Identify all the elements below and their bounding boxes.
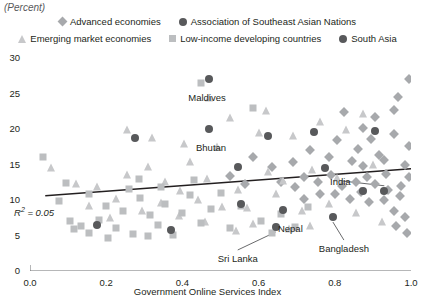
- legend-label: South Asia: [351, 33, 396, 44]
- data-point-low-income-developing-countries: [67, 218, 74, 225]
- legend-item-emerging-market-economies[interactable]: Emerging market economies: [18, 33, 151, 44]
- y-tick-label: 15: [4, 159, 20, 170]
- data-point-south-asia: [205, 75, 213, 83]
- data-point-low-income-developing-countries: [190, 177, 197, 184]
- data-point-advanced-economies: [305, 145, 315, 155]
- data-point-emerging-market-economies: [264, 167, 272, 175]
- legend-row: Advanced economiesAssociation of Southea…: [0, 14, 415, 29]
- x-tick-label: 1.0: [398, 277, 422, 288]
- data-point-advanced-economies: [315, 189, 325, 199]
- data-point-emerging-market-economies: [203, 174, 211, 182]
- data-point-advanced-economies: [345, 194, 355, 204]
- data-point-advanced-economies: [358, 161, 368, 171]
- data-point-low-income-developing-countries: [55, 197, 62, 204]
- data-point-emerging-market-economies: [148, 134, 156, 142]
- triangle-marker-icon: [18, 35, 26, 43]
- chart-legend: Advanced economiesAssociation of Southea…: [0, 14, 415, 48]
- legend-item-association-of-southeast-asian-nations[interactable]: Association of Southeast Asian Nations: [179, 16, 356, 27]
- data-point-low-income-developing-countries: [154, 221, 161, 228]
- data-point-advanced-economies: [370, 179, 380, 189]
- data-point-south-asia: [205, 125, 213, 133]
- data-point-low-income-developing-countries: [198, 79, 205, 86]
- legend-row: Emerging market economiesLow-income deve…: [0, 31, 415, 46]
- data-point-association-of-southeast-asian-nations: [321, 164, 329, 172]
- data-point-emerging-market-economies: [359, 110, 367, 118]
- data-point-emerging-market-economies: [85, 201, 93, 209]
- data-point-association-of-southeast-asian-nations: [93, 221, 101, 229]
- data-point-advanced-economies: [332, 135, 342, 145]
- data-point-advanced-economies: [324, 152, 334, 162]
- data-point-low-income-developing-countries: [187, 192, 194, 199]
- data-point-advanced-economies: [402, 228, 411, 238]
- y-tick-label: 25: [4, 88, 20, 99]
- data-point-association-of-southeast-asian-nations: [371, 127, 379, 135]
- data-point-low-income-developing-countries: [217, 189, 224, 196]
- units-label: (Percent): [4, 2, 45, 13]
- annotation-label-bangladesh: Bangladesh: [319, 243, 369, 254]
- data-point-advanced-economies: [299, 194, 309, 204]
- data-point-emerging-market-economies: [249, 220, 257, 228]
- data-point-advanced-economies: [351, 177, 361, 187]
- x-axis-title: Government Online Services Index: [0, 286, 415, 297]
- data-point-emerging-market-economies: [106, 214, 114, 222]
- data-point-low-income-developing-countries: [162, 201, 169, 208]
- data-point-low-income-developing-countries: [135, 175, 142, 182]
- data-point-emerging-market-economies: [272, 190, 280, 198]
- data-point-association-of-southeast-asian-nations: [310, 128, 318, 136]
- data-point-emerging-market-economies: [342, 126, 350, 134]
- data-point-emerging-market-economies: [262, 107, 270, 115]
- data-point-advanced-economies: [389, 105, 399, 115]
- data-point-advanced-economies: [347, 156, 357, 166]
- data-point-emerging-market-economies: [93, 183, 101, 191]
- data-point-low-income-developing-countries: [257, 218, 264, 225]
- data-point-advanced-economies: [370, 112, 380, 122]
- data-point-emerging-market-economies: [176, 186, 184, 194]
- data-point-advanced-economies: [313, 177, 323, 187]
- circle-marker-icon: [339, 35, 347, 43]
- data-point-association-of-southeast-asian-nations: [264, 132, 272, 140]
- x-tick-label: 0.6: [246, 277, 272, 288]
- data-point-emerging-market-economies: [378, 218, 386, 226]
- data-point-advanced-economies: [362, 172, 372, 182]
- data-point-low-income-developing-countries: [305, 204, 312, 211]
- data-point-low-income-developing-countries: [198, 219, 205, 226]
- data-point-emerging-market-economies: [112, 194, 120, 202]
- legend-item-south-asia[interactable]: South Asia: [339, 33, 396, 44]
- data-point-low-income-developing-countries: [78, 223, 85, 230]
- data-point-advanced-economies: [364, 197, 374, 207]
- data-point-emerging-market-economies: [316, 117, 324, 125]
- annotation-label-india: India: [330, 176, 351, 187]
- data-point-low-income-developing-countries: [158, 183, 165, 190]
- data-point-emerging-market-economies: [72, 179, 80, 187]
- data-point-advanced-economies: [288, 157, 298, 167]
- data-point-emerging-market-economies: [47, 164, 55, 172]
- data-point-advanced-economies: [225, 171, 235, 181]
- data-point-low-income-developing-countries: [207, 205, 214, 212]
- data-point-low-income-developing-countries: [40, 154, 47, 161]
- data-point-advanced-economies: [400, 160, 410, 170]
- r-squared-value: 0.05: [36, 207, 55, 218]
- annotation-label-bhutan: Bhutan: [196, 142, 226, 153]
- y-tick-label: 0: [4, 265, 20, 276]
- data-point-advanced-economies: [299, 172, 309, 182]
- data-point-low-income-developing-countries: [249, 104, 256, 111]
- data-point-advanced-economies: [389, 206, 399, 216]
- data-point-emerging-market-economies: [144, 163, 152, 171]
- annotation-label-sri-lanka: Sri Lanka: [218, 253, 258, 264]
- legend-item-advanced-economies[interactable]: Advanced economies: [59, 16, 161, 27]
- data-point-emerging-market-economies: [289, 132, 297, 140]
- data-point-advanced-economies: [248, 152, 258, 162]
- data-point-advanced-economies: [330, 189, 340, 199]
- data-point-low-income-developing-countries: [227, 225, 234, 232]
- data-point-south-asia: [234, 163, 242, 171]
- data-point-low-income-developing-countries: [86, 229, 93, 236]
- y-tick-label: 10: [4, 194, 20, 205]
- data-point-emerging-market-economies: [123, 171, 131, 179]
- data-point-south-asia: [167, 226, 175, 234]
- annotation-label-nepal: Nepal: [278, 223, 303, 234]
- data-point-low-income-developing-countries: [86, 191, 93, 198]
- legend-item-low-income-developing-countries[interactable]: Low-income developing countries: [169, 33, 321, 44]
- data-point-low-income-developing-countries: [129, 231, 136, 238]
- data-point-advanced-economies: [397, 181, 407, 191]
- y-tick-label: 20: [4, 123, 20, 134]
